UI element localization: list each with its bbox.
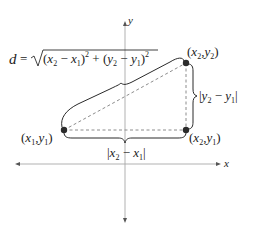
x-axis-label: x (223, 157, 229, 169)
paren-close: ) (216, 130, 220, 145)
x-axis-left-arrow-icon (15, 162, 20, 166)
formula-lhs-d: d (9, 51, 17, 67)
hypotenuse-brace (62, 58, 184, 127)
label-point-x2-y2: (x2,y2) (187, 44, 219, 61)
diagram-canvas: x y (x1,y1) (x2,y2) (x2,y1) |x2 − x1| (0, 0, 253, 234)
y-axis-bottom-arrow-icon (123, 218, 127, 223)
vertical-brace (188, 64, 197, 129)
y-axis-label: y (127, 14, 133, 26)
formula-radicand: (x2 − x1)2 + (y2 − y1)2 (43, 50, 149, 68)
minus-sign: − (57, 51, 71, 66)
exponent: 2 (145, 50, 149, 59)
formula-equals: = (20, 51, 27, 66)
label-point-x2-y1: (x2,y1) (189, 130, 221, 147)
minus-sign: − (211, 88, 225, 103)
paren-close: ) (48, 130, 52, 145)
paren-close: ) (214, 44, 218, 59)
minus-sign: − (117, 51, 131, 66)
label-horizontal-length: |x2 − x1| (107, 145, 146, 162)
label-point-x1-y1: (x1,y1) (21, 130, 53, 147)
minus-sign: − (119, 145, 133, 160)
distance-formula-diagram: x y (x1,y1) (x2,y2) (x2,y1) |x2 − x1| (0, 0, 253, 234)
abs-bar-right: | (235, 88, 238, 103)
label-vertical-length: |y2 − y1| (199, 88, 238, 105)
distance-formula: d = (x2 − x1)2 + (y2 − y1)2 (9, 50, 158, 68)
point-x1-y1 (61, 127, 67, 133)
abs-bar-right: | (143, 145, 146, 160)
plus-sign: + (89, 51, 103, 66)
point-x2-y2 (183, 60, 189, 66)
x-axis-right-arrow-icon (216, 162, 221, 166)
y-axis-top-arrow-icon (123, 21, 127, 26)
